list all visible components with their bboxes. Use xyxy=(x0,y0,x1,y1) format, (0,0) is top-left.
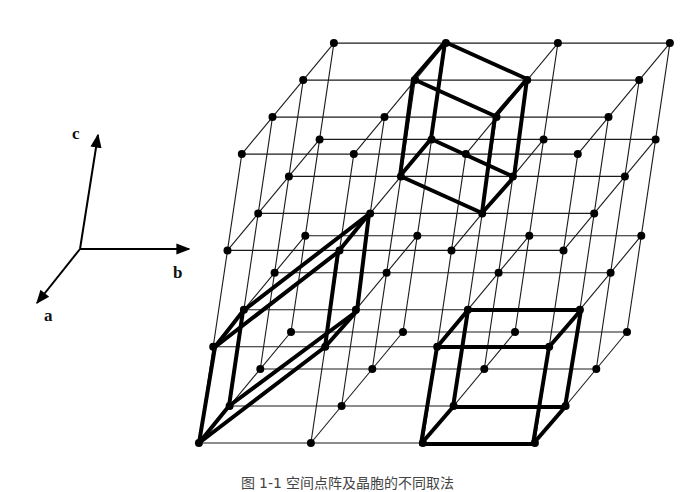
figure-caption: 图 1-1 空间点阵及晶胞的不同取法 xyxy=(0,472,695,492)
top-rotated-cell xyxy=(400,42,527,213)
lattice-point xyxy=(299,76,307,84)
bottom-right-cubic-cell xyxy=(421,310,581,444)
cell-edge xyxy=(431,139,514,177)
cell-edge xyxy=(229,311,357,406)
lattice-point xyxy=(224,246,232,254)
lattice-point xyxy=(540,135,548,143)
axis-a-arrow xyxy=(37,249,80,303)
lattice-point xyxy=(368,365,376,373)
lattice-point xyxy=(307,439,315,447)
cell-edge xyxy=(445,42,527,79)
lattice-point xyxy=(511,328,519,336)
axis-a-label: a xyxy=(44,306,53,325)
cell-edge xyxy=(413,79,495,116)
lattice-point xyxy=(666,39,674,47)
lattice-point xyxy=(271,269,279,277)
lattice-point xyxy=(560,246,568,254)
lattice-point xyxy=(381,113,389,121)
lattice-point xyxy=(399,328,407,336)
lattice-point xyxy=(605,113,613,121)
lattice-points xyxy=(195,39,674,447)
lattice-point xyxy=(413,232,421,240)
cell-edge xyxy=(199,347,325,443)
lattice-point xyxy=(350,150,358,158)
lattice-point xyxy=(330,39,338,47)
cell-edge xyxy=(215,252,338,347)
lattice-point xyxy=(592,365,600,373)
lattice-point xyxy=(448,246,456,254)
lattice-point xyxy=(316,135,324,143)
lattice-point xyxy=(238,150,246,158)
axis-c-arrow xyxy=(80,135,98,249)
lattice-point xyxy=(301,232,309,240)
lattice-point xyxy=(338,402,346,410)
axis-b-label: b xyxy=(173,263,182,282)
lattice-point xyxy=(256,365,264,373)
lattice-point xyxy=(285,172,293,180)
lattice-point xyxy=(554,39,562,47)
lattice-point xyxy=(495,269,503,277)
lattice-point xyxy=(637,232,645,240)
lattice-point xyxy=(525,232,533,240)
lattice-point xyxy=(621,172,629,180)
lattice-point xyxy=(635,76,643,84)
lattice-point xyxy=(480,365,488,373)
axis-c-label: c xyxy=(72,124,80,143)
lattice-point xyxy=(607,269,615,277)
coordinate-axes: cba xyxy=(37,124,189,325)
lattice-point xyxy=(590,209,598,217)
lattice-point xyxy=(574,150,582,158)
lattice-point xyxy=(287,328,295,336)
lattice-point xyxy=(652,135,660,143)
lattice-point xyxy=(269,113,277,121)
lattice-point xyxy=(254,209,262,217)
lattice-point xyxy=(383,269,391,277)
cell-edge xyxy=(400,176,482,213)
lattice-point xyxy=(623,328,631,336)
